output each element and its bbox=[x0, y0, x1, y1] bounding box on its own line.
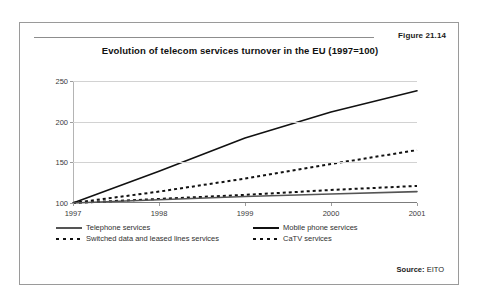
plot-area: 10015020025019971998199920002001 bbox=[73, 81, 417, 203]
legend-item-telephone-services: Telephone services bbox=[56, 223, 150, 232]
legend-label: Mobile phone services bbox=[283, 223, 358, 232]
legend-label: CaTV services bbox=[283, 234, 332, 243]
chart-legend: Telephone services Mobile phone services… bbox=[56, 223, 446, 249]
x-tick-mark bbox=[417, 203, 418, 206]
x-tick-mark bbox=[245, 203, 246, 206]
figure-header: Figure 21.14 bbox=[34, 31, 446, 43]
series-line bbox=[73, 150, 417, 203]
source-value: EITO bbox=[427, 265, 444, 274]
series-svg bbox=[73, 81, 417, 203]
x-tick-label: 1998 bbox=[151, 209, 168, 218]
legend-label: Telephone services bbox=[86, 223, 150, 232]
legend-swatch-dotted-icon bbox=[56, 235, 82, 242]
series-line bbox=[73, 192, 417, 203]
y-tick-label: 150 bbox=[55, 158, 68, 167]
legend-item-mobile-phone-services: Mobile phone services bbox=[253, 223, 358, 232]
y-tick-label: 100 bbox=[55, 199, 68, 208]
gridline bbox=[73, 162, 417, 163]
y-tick-label: 200 bbox=[55, 117, 68, 126]
y-tick-label: 250 bbox=[55, 77, 68, 86]
x-tick-mark bbox=[159, 203, 160, 206]
source-label: Source: bbox=[397, 265, 425, 274]
series-line bbox=[73, 91, 417, 203]
figure-number: Figure 21.14 bbox=[398, 31, 446, 40]
legend-label: Switched data and leased lines services bbox=[86, 234, 219, 243]
figure-frame: Figure 21.14 Evolution of telecom servic… bbox=[19, 22, 459, 285]
source-line: Source: EITO bbox=[397, 265, 444, 274]
legend-swatch-dotted-icon bbox=[253, 235, 279, 242]
chart-title: Evolution of telecom services turnover i… bbox=[34, 45, 446, 56]
y-tick-mark bbox=[70, 81, 73, 82]
x-tick-label: 2001 bbox=[409, 209, 426, 218]
y-tick-mark bbox=[70, 122, 73, 123]
x-tick-mark bbox=[73, 203, 74, 206]
legend-swatch-solid-icon bbox=[253, 224, 279, 231]
legend-item-switched-data-and-leased-lines-services: Switched data and leased lines services bbox=[56, 234, 219, 243]
header-rule bbox=[34, 37, 374, 38]
x-tick-label: 1997 bbox=[65, 209, 82, 218]
y-tick-mark bbox=[70, 162, 73, 163]
plot-wrapper: 10015020025019971998199920002001 bbox=[34, 67, 446, 237]
gridline bbox=[73, 81, 417, 82]
legend-swatch-solid-icon bbox=[56, 224, 82, 231]
legend-item-catv-services: CaTV services bbox=[253, 234, 332, 243]
x-tick-label: 2000 bbox=[323, 209, 340, 218]
gridline bbox=[73, 122, 417, 123]
x-tick-label: 1999 bbox=[237, 209, 254, 218]
x-tick-mark bbox=[331, 203, 332, 206]
